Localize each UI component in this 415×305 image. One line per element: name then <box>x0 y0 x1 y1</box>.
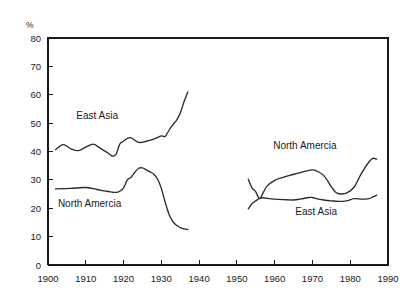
x-tick-label: 1990 <box>377 273 398 284</box>
y-tick-label: 30 <box>30 174 41 185</box>
series-label-2: North Amercia <box>273 140 337 151</box>
y-tick-label: 10 <box>30 231 41 242</box>
x-tick-label: 1950 <box>226 273 247 284</box>
y-tick-label: 20 <box>30 203 41 214</box>
y-axis-unit-label: % <box>26 20 34 30</box>
series-line-2 <box>248 158 376 198</box>
x-tick-label: 1920 <box>113 273 134 284</box>
y-tick-label: 80 <box>30 33 41 44</box>
x-tick-label: 1960 <box>264 273 285 284</box>
x-tick-label: 1940 <box>189 273 210 284</box>
plot-frame <box>48 38 388 265</box>
y-tick-label: 60 <box>30 89 41 100</box>
series-line-0 <box>56 92 188 156</box>
x-tick-label: 1900 <box>37 273 58 284</box>
y-tick-label: 0 <box>36 260 41 271</box>
y-tick-label: 50 <box>30 118 41 129</box>
chart-container: 0102030405060708019001910192019301940195… <box>0 0 415 305</box>
axis-tick-labels: 0102030405060708019001910192019301940195… <box>30 33 398 285</box>
x-tick-label: 1930 <box>151 273 172 284</box>
series-label-0: East Asia <box>76 110 118 121</box>
line-chart: 0102030405060708019001910192019301940195… <box>0 0 415 305</box>
series-annotations: East AsiaNorth AmerciaNorth AmerciaEast … <box>58 110 338 217</box>
series-label-1: North Amercia <box>58 198 122 209</box>
x-tick-label: 1980 <box>340 273 361 284</box>
chart-axes <box>48 38 388 265</box>
y-tick-label: 70 <box>30 61 41 72</box>
y-tick-label: 40 <box>30 146 41 157</box>
axis-ticks <box>48 66 350 265</box>
series-label-3: East Asia <box>295 206 337 217</box>
x-tick-label: 1970 <box>302 273 323 284</box>
x-tick-label: 1910 <box>75 273 96 284</box>
